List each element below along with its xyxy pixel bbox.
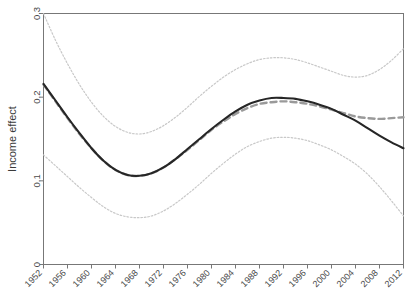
- x-tick-label: 2008: [359, 268, 380, 289]
- y-tick-label: 0.3: [31, 7, 42, 20]
- chart-figure: 00.10.20.3 19521956196019641968197219761…: [0, 0, 418, 308]
- x-axis-ticks: 1952195619601964196819721976198019841988…: [23, 265, 404, 290]
- x-tick-label: 1976: [167, 268, 188, 289]
- series-estimate-dashed: [44, 85, 404, 176]
- x-tick-label: 1996: [287, 268, 308, 289]
- x-tick-label: 2004: [335, 268, 356, 289]
- series-estimate-solid: [44, 84, 404, 176]
- series-lower-confidence-band: [44, 137, 404, 217]
- y-axis-ticks: 00.10.20.3: [31, 7, 44, 267]
- x-tick-label: 1960: [71, 268, 92, 289]
- x-tick-label: 1988: [239, 268, 260, 289]
- x-tick-label: 1972: [143, 268, 164, 289]
- x-tick-label: 2012: [383, 268, 404, 289]
- x-tick-label: 1992: [263, 268, 284, 289]
- x-tick-label: 2000: [311, 268, 332, 289]
- x-tick-label: 1956: [47, 268, 68, 289]
- x-tick-label: 1952: [23, 268, 44, 289]
- y-axis-title: Income effect: [6, 106, 18, 172]
- income-effect-line-chart: 00.10.20.3 19521956196019641968197219761…: [0, 0, 418, 308]
- y-axis-label: Income effect: [6, 106, 18, 172]
- y-tick-label: 0: [31, 262, 42, 267]
- data-series-group: [44, 14, 404, 218]
- plot-frame: [44, 14, 404, 265]
- x-tick-label: 1964: [95, 268, 116, 289]
- y-tick-label: 0.2: [31, 91, 42, 104]
- y-tick-label: 0.1: [31, 174, 42, 187]
- x-tick-label: 1968: [119, 268, 140, 289]
- x-tick-label: 1984: [215, 268, 236, 289]
- x-tick-label: 1980: [191, 268, 212, 289]
